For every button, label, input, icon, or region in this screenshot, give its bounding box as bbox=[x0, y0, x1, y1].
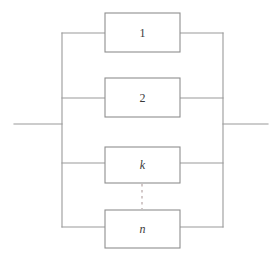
parallel-block-diagram: 1 2 k n bbox=[0, 0, 279, 257]
block-rect-2 bbox=[105, 78, 180, 117]
diagram-canvas bbox=[0, 0, 279, 257]
block-rect-1 bbox=[105, 13, 180, 52]
block-rect-k bbox=[105, 147, 180, 183]
block-rect-n bbox=[105, 210, 180, 248]
